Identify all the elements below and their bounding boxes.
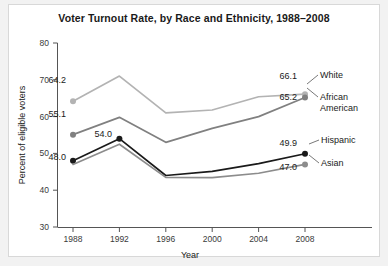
chart-figure: Voter Turnout Rate, by Race and Ethnicit…	[0, 0, 388, 266]
x-tick-label-1996: 1996	[156, 234, 175, 244]
data-point-marker	[302, 94, 308, 100]
x-tick-label-2008: 2008	[296, 234, 315, 244]
series-label-african-american-line1: African	[320, 92, 348, 102]
y-axis: 80 70 60 50 40 30 Percent of eligible vo…	[17, 38, 58, 232]
value-annotations: 64.2 55.1 48.0 54.0 66.1 65.2 49.9 47.0	[48, 71, 297, 172]
label-asian-2008: 47.0	[279, 162, 297, 172]
series-line	[73, 139, 305, 176]
x-axis-title: Year	[181, 250, 199, 260]
data-point-marker	[70, 98, 76, 104]
label-hispanic-1992: 54.0	[94, 129, 112, 139]
series-label-white: White	[320, 70, 343, 80]
label-hispanic-1988: 48.0	[48, 152, 66, 162]
label-white-1988: 64.2	[48, 75, 66, 85]
y-tick-label-30: 30	[40, 222, 50, 232]
x-tick-label-2000: 2000	[203, 234, 222, 244]
series-line	[73, 76, 305, 113]
label-white-2008: 66.1	[279, 71, 297, 81]
series-callouts: White African American Hispanic Asian	[307, 70, 358, 168]
data-point-marker	[302, 161, 308, 167]
x-tick-label-2004: 2004	[249, 234, 268, 244]
leader-asian	[309, 155, 319, 163]
data-point-marker	[70, 132, 76, 138]
data-point-marker	[116, 136, 122, 142]
y-tick-label-80: 80	[40, 38, 50, 48]
leader-hispanic	[309, 140, 319, 144]
leader-white	[307, 75, 318, 84]
label-hispanic-2008: 49.9	[279, 138, 297, 148]
series-layer	[70, 76, 308, 178]
series-hispanic	[70, 136, 308, 176]
line-chart-plot: 80 70 60 50 40 30 Percent of eligible vo…	[0, 0, 388, 266]
x-axis: 1988 1992 1996 2000 2004 2008 Year	[58, 228, 373, 261]
x-tick-label-1992: 1992	[110, 234, 129, 244]
series-white	[70, 76, 308, 113]
series-label-hispanic: Hispanic	[321, 135, 356, 145]
y-axis-title: Percent of eligible voters	[17, 85, 27, 184]
series-label-african-american-line2: American	[320, 103, 358, 113]
series-label-asian: Asian	[321, 158, 344, 168]
x-tick-label-1988: 1988	[64, 234, 83, 244]
leader-african-american	[307, 88, 318, 97]
label-aa-1988: 55.1	[48, 109, 66, 119]
data-point-marker	[302, 151, 308, 157]
y-tick-label-40: 40	[40, 185, 50, 195]
label-aa-2008: 65.2	[279, 92, 297, 102]
